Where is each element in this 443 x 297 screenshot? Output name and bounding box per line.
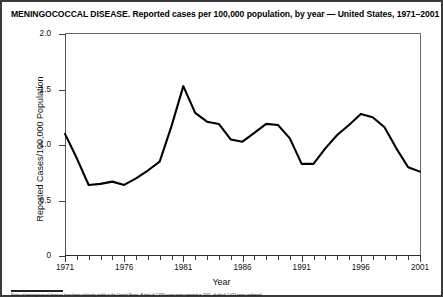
y-axis-tick-label: 0 [46, 251, 51, 260]
x-axis-tick [337, 256, 338, 260]
x-axis-tick [219, 256, 220, 260]
plot-area [65, 34, 420, 256]
x-axis-tick [183, 256, 184, 262]
x-axis-tick-label: 2001 [411, 263, 429, 272]
x-axis-tick [266, 256, 267, 260]
x-axis-tick [195, 256, 196, 260]
x-axis-tick-label: 1986 [233, 263, 251, 272]
x-axis-tick [420, 256, 421, 262]
y-axis-tick-label: 2.0 [40, 29, 51, 38]
x-axis-tick [172, 256, 173, 260]
chart-title: MENINGOCOCCAL DISEASE. Reported cases pe… [11, 9, 436, 20]
x-axis-tick [65, 256, 66, 262]
x-axis-tick [361, 256, 362, 262]
x-axis-tick [408, 256, 409, 260]
y-axis-tick [59, 145, 65, 146]
x-axis-tick [314, 256, 315, 260]
x-axis-tick [136, 256, 137, 260]
x-axis-tick-label: 1981 [174, 263, 192, 272]
x-axis-tick [243, 256, 244, 262]
x-axis-tick [160, 256, 161, 260]
x-axis-tick [385, 256, 386, 260]
x-axis-tick [231, 256, 232, 260]
x-axis-tick [254, 256, 255, 260]
x-axis-tick [89, 256, 90, 260]
chart-figure: MENINGOCOCCAL DISEASE. Reported cases pe… [0, 0, 443, 297]
footnote-text: Rates of meningococcal disease have been… [11, 293, 439, 297]
x-axis-title: Year [2, 277, 441, 287]
x-axis-tick [124, 256, 125, 262]
x-axis-tick-label: 1971 [56, 263, 74, 272]
x-axis-tick [207, 256, 208, 260]
x-axis-tick [396, 256, 397, 260]
footnote-rule [11, 290, 63, 292]
x-axis-tick [77, 256, 78, 260]
x-axis-tick-label: 1996 [352, 263, 370, 272]
x-axis-tick [290, 256, 291, 260]
x-axis-tick [101, 256, 102, 260]
y-axis-tick [59, 34, 65, 35]
x-axis-tick [148, 256, 149, 260]
x-axis-tick [373, 256, 374, 260]
x-axis-tick [112, 256, 113, 260]
x-axis-tick [278, 256, 279, 260]
y-axis-title: Reported Cases/100,000 Population [35, 49, 45, 249]
x-axis-tick [349, 256, 350, 260]
x-axis-tick [302, 256, 303, 262]
x-axis-tick-label: 1976 [115, 263, 133, 272]
y-axis-tick [59, 90, 65, 91]
x-axis-tick [325, 256, 326, 260]
y-axis-tick [59, 201, 65, 202]
x-axis-tick-label: 1991 [293, 263, 311, 272]
plot-right-border [420, 33, 421, 257]
